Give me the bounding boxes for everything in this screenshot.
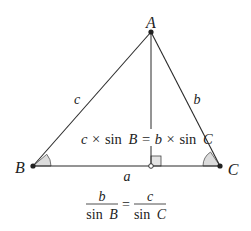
vertex-b-label: B: [15, 159, 25, 176]
equation-ratio-form: b sin B = c sin C: [86, 189, 167, 222]
side-b-label: b: [194, 92, 201, 107]
vertex-c-point: [217, 163, 222, 168]
vertex-c-label: C: [228, 161, 239, 178]
angle-c-mark: [203, 152, 220, 166]
vertex-b-point: [30, 163, 35, 168]
equation-product-form: c × sin B = b × sin C: [81, 131, 213, 147]
side-a-label: a: [124, 169, 131, 184]
ratio-equals: =: [122, 197, 130, 212]
ratio-right-numerator: c: [147, 189, 154, 204]
ratio-left-denominator: sin B: [86, 207, 118, 222]
law-of-sines-diagram: A B C a b c c × sin B = b × sin C b sin …: [0, 0, 251, 231]
foot-point: [149, 164, 154, 169]
vertex-a-label: A: [145, 14, 156, 31]
ratio-left-numerator: b: [99, 189, 106, 204]
side-c-label: c: [74, 92, 81, 107]
ratio-right-denominator: sin C: [134, 207, 167, 222]
